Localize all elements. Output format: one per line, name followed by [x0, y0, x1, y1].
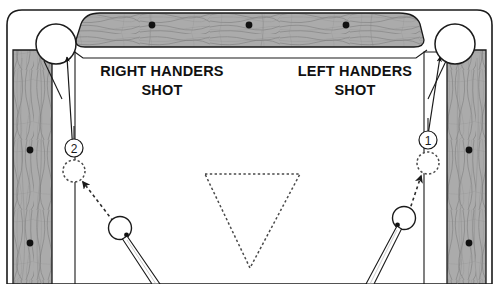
right-handers-line1: RIGHT HANDERS [100, 63, 224, 79]
right-handers-line2: SHOT [141, 82, 182, 98]
diamond-marker [246, 22, 253, 29]
right-ghost-ball [417, 152, 439, 174]
right-object-ball-number: 1 [425, 134, 432, 148]
top-rail [76, 13, 424, 47]
left-handers-line2: SHOT [334, 82, 375, 98]
diamond-marker [149, 22, 156, 29]
left-handers-line1: LEFT HANDERS [298, 63, 413, 79]
left-object-ball-number: 2 [71, 142, 78, 156]
left-cue-ball [109, 217, 132, 240]
diamond-marker [27, 240, 34, 247]
right-rail [447, 50, 486, 284]
pool-table-diagram: RIGHT HANDERS SHOT LEFT HANDERS SHOT 2 1 [0, 0, 499, 284]
diamond-marker [27, 147, 34, 154]
diamond-marker [343, 22, 350, 29]
diamond-marker [466, 240, 473, 247]
left-rail [13, 50, 52, 284]
left-ghost-ball [63, 160, 85, 182]
diamond-marker [466, 147, 473, 154]
right-cue-ball [393, 207, 416, 230]
